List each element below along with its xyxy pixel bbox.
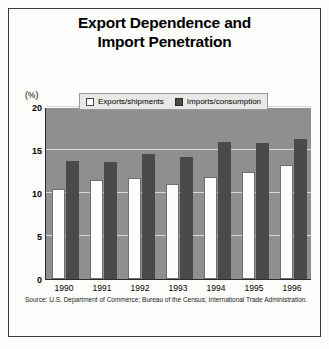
bar-exports-1993 [166, 184, 179, 279]
bar-exports-1990 [52, 189, 65, 279]
y-tick-label-5: 5 [24, 232, 42, 242]
legend-item-imports: Imports/consumption [175, 97, 261, 106]
y-tick-label-0: 0 [24, 275, 42, 285]
bar-imports-1994 [218, 142, 231, 279]
bar-group-1995 [236, 108, 274, 279]
bar-exports-1992 [128, 178, 141, 279]
bar-group-1993 [160, 108, 198, 279]
x-tick-label-1990: 1990 [55, 283, 74, 293]
bar-exports-1994 [204, 177, 217, 279]
bar-imports-1990 [66, 161, 79, 279]
bar-imports-1991 [104, 162, 117, 279]
bar-imports-1996 [294, 139, 307, 279]
legend-label-exports: Exports/shipments [98, 97, 164, 106]
source-note: Source: U.S. Department of Commerce; Bur… [25, 295, 321, 304]
chart-title-line-2: Import Penetration [8, 32, 321, 51]
x-tick-label-1995: 1995 [245, 283, 264, 293]
bar-exports-1995 [242, 172, 255, 280]
bar-exports-1996 [280, 165, 293, 279]
x-axis-tick-labels: 1990199119921993199419951996 [45, 283, 311, 295]
plot-area [45, 108, 311, 280]
x-tick-label-1994: 1994 [207, 283, 226, 293]
y-axis-tick-labels: 20151050 [20, 108, 42, 280]
bar-imports-1993 [180, 157, 193, 279]
bar-imports-1995 [256, 143, 269, 279]
legend-swatch-icon-imports [175, 98, 183, 106]
bar-group-1992 [122, 108, 160, 279]
bar-group-1996 [274, 108, 312, 279]
x-tick-label-1992: 1992 [131, 283, 150, 293]
bar-imports-1992 [142, 154, 155, 279]
bar-group-1994 [198, 108, 236, 279]
chart-figure: Export Dependence and Import Penetration… [0, 0, 329, 349]
y-tick-label-10: 10 [24, 189, 42, 199]
chart-title: Export Dependence and Import Penetration [8, 13, 321, 51]
y-tick-label-20: 20 [24, 103, 42, 113]
bar-exports-1991 [90, 180, 103, 279]
legend-swatch-icon-exports [86, 98, 94, 106]
bar-group-1991 [84, 108, 122, 279]
legend-item-exports: Exports/shipments [86, 97, 164, 106]
y-axis-unit-label: (%) [25, 90, 38, 100]
bar-groups [46, 108, 311, 279]
chart-legend: Exports/shipments Imports/consumption [79, 93, 268, 110]
legend-label-imports: Imports/consumption [187, 97, 261, 106]
x-tick-label-1991: 1991 [93, 283, 112, 293]
y-tick-label-15: 15 [24, 146, 42, 156]
x-tick-label-1993: 1993 [169, 283, 188, 293]
chart-title-line-1: Export Dependence and [8, 13, 321, 32]
x-tick-label-1996: 1996 [283, 283, 302, 293]
bar-group-1990 [46, 108, 84, 279]
